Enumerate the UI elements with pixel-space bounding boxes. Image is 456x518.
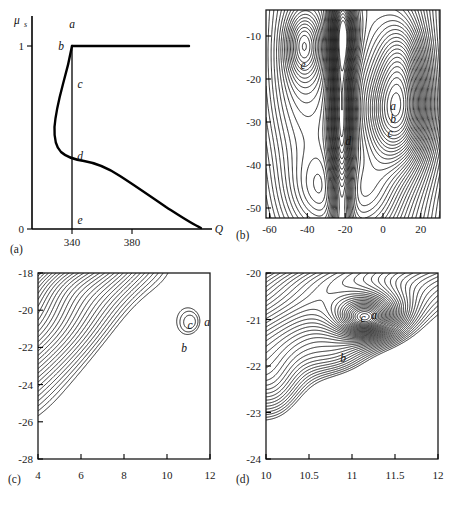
panel-a-plot: 0 1 340 380 μ s Q a b c d e (a) bbox=[0, 0, 228, 259]
panel-b-label-d: d bbox=[345, 135, 351, 147]
panel-c-xtick-4: 12 bbox=[205, 469, 216, 481]
contour-line bbox=[266, 301, 438, 412]
s-shaped-branch bbox=[54, 46, 201, 228]
panel-b-xtick-2: -20 bbox=[338, 223, 353, 235]
panel-b-xtick-3: 0 bbox=[380, 223, 386, 235]
panel-a-tag: (a) bbox=[10, 243, 23, 256]
panel-c-ytick-1: -20 bbox=[18, 304, 33, 316]
panel-b-ytick-2: -30 bbox=[246, 116, 261, 128]
panel-c-label-c: c bbox=[187, 319, 192, 331]
panel-c-ytick-4: -26 bbox=[18, 416, 33, 428]
panel-d-ytick-0: -20 bbox=[246, 267, 261, 279]
panel-b-xtick-4: 20 bbox=[415, 223, 427, 235]
panel-a-label-c: c bbox=[77, 78, 82, 90]
panel-c-xtick-1: 6 bbox=[78, 469, 84, 481]
panel-d: -20 -21 -22 -23 -24 10 10.5 11 11.5 12 c… bbox=[228, 259, 456, 518]
panel-b-label-e: e bbox=[300, 59, 305, 71]
panel-c-ytick-0: -18 bbox=[18, 267, 33, 279]
panel-d-xtick-0: 10 bbox=[261, 469, 273, 481]
panel-c-ytick-2: -22 bbox=[18, 341, 33, 353]
contour-line bbox=[38, 273, 60, 300]
panel-d-label-a: a bbox=[371, 309, 377, 321]
panel-a-xlabel: Q bbox=[215, 223, 224, 235]
panel-c-label-a: a bbox=[204, 316, 210, 328]
panel-d-contours bbox=[266, 273, 438, 420]
contour-line bbox=[38, 273, 198, 411]
contour-line bbox=[38, 273, 128, 373]
panel-a-label-d: d bbox=[77, 150, 83, 162]
panel-a-xtick-380: 380 bbox=[124, 236, 141, 248]
contour-line bbox=[38, 273, 45, 280]
panel-a-ylabel-subscript: s bbox=[24, 20, 27, 29]
panel-b-ytick-0: -10 bbox=[246, 30, 261, 42]
panel-b-ytick-3: -40 bbox=[246, 159, 261, 171]
panel-a-label-e: e bbox=[77, 214, 82, 226]
panel-c-tag: (c) bbox=[8, 473, 21, 486]
panel-c-xtick-0: 4 bbox=[35, 469, 41, 481]
four-panel-figure: 0 1 340 380 μ s Q a b c d e (a) bbox=[0, 0, 456, 518]
panel-b-plot: -10 -20 -30 -40 -50 -60 -40 -20 0 20 e a… bbox=[228, 0, 456, 259]
panel-d-tag: (d) bbox=[236, 473, 250, 486]
panel-c-plot: -18 -20 -22 -24 -26 -28 4 6 8 10 12 c a … bbox=[0, 259, 228, 518]
panel-d-xtick-4: 12 bbox=[433, 469, 444, 481]
panel-c-ytick-5: -28 bbox=[18, 453, 33, 465]
contour-line bbox=[38, 273, 136, 382]
panel-d-xtick-1: 10.5 bbox=[299, 469, 319, 481]
panel-a-xtick-340: 340 bbox=[64, 236, 81, 248]
panel-b-ytick-1: -20 bbox=[246, 73, 261, 85]
panel-d-label-b: b bbox=[340, 352, 346, 364]
panel-a-label-b: b bbox=[58, 40, 64, 52]
panel-b-xtick-1: -40 bbox=[300, 223, 315, 235]
panel-c-xtick-2: 8 bbox=[121, 469, 127, 481]
panel-c-contours bbox=[38, 273, 200, 416]
panel-b-tag: (b) bbox=[236, 229, 250, 242]
panel-a-ytick-1: 1 bbox=[19, 40, 25, 52]
panel-c-ytick-3: -24 bbox=[18, 379, 33, 391]
panel-a-ylabel: μ bbox=[13, 14, 20, 27]
panel-d-ytick-1: -21 bbox=[246, 314, 261, 326]
panel-d-ytick-2: -22 bbox=[246, 360, 261, 372]
panel-d-ytick-4: -24 bbox=[246, 453, 261, 465]
panel-b-contours bbox=[266, 10, 440, 218]
panel-d-xtick-3: 11.5 bbox=[386, 469, 405, 481]
panel-b-label-c: c bbox=[387, 127, 392, 139]
panel-d-plot: -20 -21 -22 -23 -24 10 10.5 11 11.5 12 c… bbox=[228, 259, 456, 518]
panel-c-label-b: b bbox=[181, 342, 187, 354]
panel-a-ylabel-group: μ s bbox=[13, 14, 27, 29]
panel-b-xtick-0: -60 bbox=[262, 223, 277, 235]
panel-a-label-a: a bbox=[69, 18, 75, 30]
contour-line bbox=[38, 273, 145, 391]
panel-b-label-a: a bbox=[390, 100, 396, 112]
panel-b-label-b: b bbox=[390, 113, 396, 125]
panel-c: -18 -20 -22 -24 -26 -28 4 6 8 10 12 c a … bbox=[0, 259, 228, 518]
panel-d-xtick-2: 11 bbox=[347, 469, 358, 481]
panel-a: 0 1 340 380 μ s Q a b c d e (a) bbox=[0, 0, 228, 259]
panel-c-xtick-3: 10 bbox=[162, 469, 174, 481]
panel-a-ytick-0: 0 bbox=[19, 223, 25, 235]
panel-d-ytick-3: -23 bbox=[246, 407, 261, 419]
panel-b-ytick-4: -50 bbox=[246, 202, 261, 214]
panel-d-label-c: c bbox=[360, 312, 365, 324]
panel-b: -10 -20 -30 -40 -50 -60 -40 -20 0 20 e a… bbox=[228, 0, 456, 259]
